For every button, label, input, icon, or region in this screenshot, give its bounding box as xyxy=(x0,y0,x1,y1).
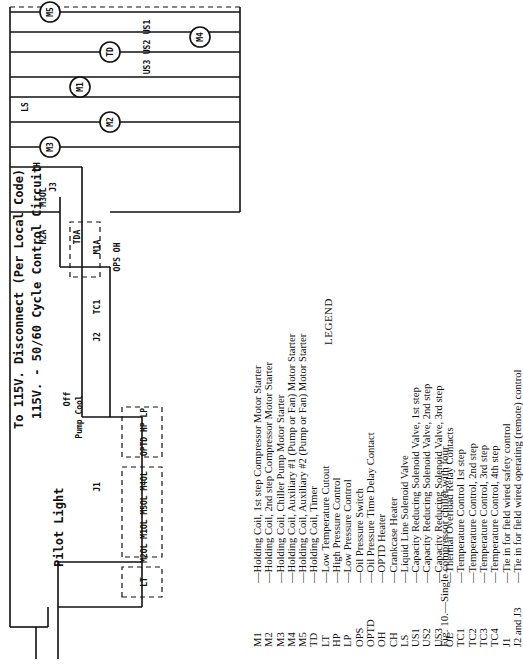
figure-caption: Fig. 10.—Single compressor chiller with … xyxy=(438,446,450,647)
legend-item: US1—Capacity Reducing Solenoid Valve, 1s… xyxy=(410,334,421,647)
legend-item: CH—Crankcase Heater xyxy=(388,334,399,647)
svg-text:M3: M3 xyxy=(46,142,55,152)
svg-text:OPS OH: OPS OH xyxy=(113,242,122,271)
svg-text:M1: M1 xyxy=(76,82,85,92)
legend-item: TC3—Temperature Control, 3rd step xyxy=(478,334,489,647)
svg-text:J2: J2 xyxy=(93,332,102,342)
svg-text:J1: J1 xyxy=(93,482,102,492)
svg-text:US3: US3 xyxy=(143,60,152,75)
svg-text:M2: M2 xyxy=(106,117,115,127)
legend-item: TC4—Temperature Control, 4th step xyxy=(489,334,500,647)
svg-text:M1A: M1A xyxy=(93,240,102,255)
svg-text:J3: J3 xyxy=(49,182,58,192)
legend-item: M3—Holding Coil, Chiller Pump Motor Star… xyxy=(275,334,286,647)
legend-item: LT—Low Temperature Cutout xyxy=(320,334,331,647)
legend-item: J1—Tie in for field wired safety control xyxy=(501,334,512,647)
legend-item: LS—Liquid Line Solenoid Valve xyxy=(399,334,410,647)
svg-text:M3OL: M3OL xyxy=(39,187,48,206)
svg-text:M2OL M1OL M5OL M4OL: M2OL M1OL M5OL M4OL xyxy=(140,471,149,563)
svg-text:TDA: TDA xyxy=(73,230,82,245)
legend-item: OPTD—Oil Pressure Time Delay Contact xyxy=(365,334,376,647)
legend-list: M1—Holding Coil, 1st step Compressor Mot… xyxy=(252,334,523,647)
svg-text:LS: LS xyxy=(21,102,30,112)
legend-item: M1—Holding Coil, 1st step Compressor Mot… xyxy=(252,334,263,647)
legend-item: TC2—Temperature Control, 2nd step xyxy=(467,334,478,647)
svg-text:OPTD HP LP: OPTD HP LP xyxy=(140,408,149,456)
svg-text:US2: US2 xyxy=(143,40,152,55)
legend-item: TD—Holding Coil, Timer xyxy=(308,334,319,647)
legend-item: M4—Holding Coil, Auxiliary #1 (Pump or F… xyxy=(286,334,297,647)
legend-item: TC1—Temperature Control 1st step xyxy=(455,334,466,647)
svg-text:M2A: M2A xyxy=(39,230,48,245)
legend-item: HP—High Pressure Control xyxy=(331,334,342,647)
svg-text:US1: US1 xyxy=(143,20,152,35)
svg-text:TD: TD xyxy=(106,47,115,57)
legend-item: M2—Holding Coil, 2nd step Compressor Mot… xyxy=(263,334,274,647)
svg-text:TC1: TC1 xyxy=(93,300,102,315)
legend-item: US2—Capacity Reducing Solenoid Valve, 2n… xyxy=(421,334,432,647)
svg-text:M4: M4 xyxy=(196,32,205,42)
legend-item: OPS—Oil Pressure Switch xyxy=(354,334,365,647)
svg-text:Off: Off xyxy=(63,392,72,407)
legend-item: M5—Holding Coil, Auxiliary #2 (Pump or F… xyxy=(297,334,308,647)
svg-text:LT: LT xyxy=(140,577,149,587)
svg-text:M5: M5 xyxy=(46,7,55,17)
legend-item: LP—Low Pressure Control xyxy=(342,334,353,647)
svg-text:Pump Cool: Pump Cool xyxy=(75,395,84,439)
legend-item: J2 and J3—Tie in for field wired operati… xyxy=(512,334,523,647)
legend-item: OH—OPTD Heater xyxy=(376,334,387,647)
svg-text:CH: CH xyxy=(33,162,42,172)
